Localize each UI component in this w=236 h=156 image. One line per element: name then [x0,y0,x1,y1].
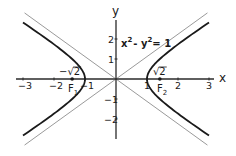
equation-rhs: = 1 [152,38,171,49]
y-tick-label: 2 [108,34,114,45]
f1-value-label: −√2 [59,66,80,77]
x-tick-label: 3 [206,80,212,91]
equation-minus-y: - y [133,38,148,49]
x-tick-label: −3 [18,80,32,91]
hyperbola-chart: −3−2−112321−1−2 x y x2- y2= 1 −√2 √2 F1 … [0,0,236,156]
focus-point-f2 [158,77,162,81]
y-tick-label: 1 [108,54,114,65]
f2-value-label: √2 [153,66,166,77]
x-tick-label: 2 [175,80,181,91]
equation-x-exponent: 2 [127,36,132,44]
f2-label: F2 [157,83,167,97]
x-tick-label: −2 [49,80,63,91]
f1-label: F1 [68,83,78,97]
f2-subscript: 2 [163,89,167,97]
y-axis-label: y [112,4,119,18]
x-axis-label: x [219,71,226,85]
equation-label: x2- y2= 1 [121,36,171,49]
y-tick-label: −1 [104,94,118,105]
y-tick-label: −2 [104,114,118,125]
f1-subscript: 1 [74,89,78,97]
focus-point-f1 [70,77,74,81]
